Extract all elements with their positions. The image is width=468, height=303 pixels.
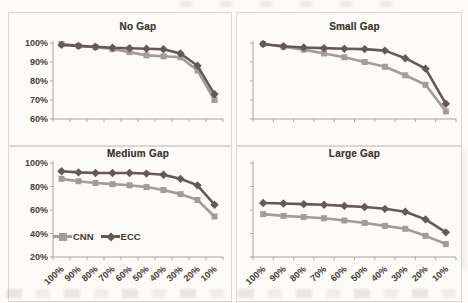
legend-label-ecc: ECC xyxy=(121,231,141,242)
chart-no-gap-plot: 60%70%80%90%100% xyxy=(9,13,233,147)
svg-text:30%: 30% xyxy=(165,264,185,283)
svg-text:10%: 10% xyxy=(199,264,219,283)
svg-text:40%: 40% xyxy=(369,264,389,283)
svg-text:70%: 70% xyxy=(30,95,48,105)
svg-text:50%: 50% xyxy=(131,264,151,283)
svg-text:70%: 70% xyxy=(97,264,117,283)
svg-text:100%: 100% xyxy=(244,264,268,287)
legend-item-cnn: CNN xyxy=(53,231,94,242)
svg-text:50%: 50% xyxy=(349,264,369,283)
svg-text:30%: 30% xyxy=(390,264,410,283)
svg-text:40%: 40% xyxy=(30,229,48,239)
svg-text:60%: 60% xyxy=(30,205,48,215)
svg-text:80%: 80% xyxy=(30,182,48,192)
svg-text:70%: 70% xyxy=(308,264,328,283)
svg-text:10%: 10% xyxy=(430,264,450,283)
legend-item-ecc: ECC xyxy=(101,231,141,242)
svg-text:20%: 20% xyxy=(182,264,202,283)
legend-label-cnn: CNN xyxy=(73,231,94,242)
panel-no-gap: No Gap 60%70%80%90%100% xyxy=(8,12,232,146)
svg-text:60%: 60% xyxy=(114,264,134,283)
svg-text:100%: 100% xyxy=(25,38,48,48)
svg-text:80%: 80% xyxy=(80,264,100,283)
svg-text:60%: 60% xyxy=(329,264,349,283)
chart-legend: CNN ECC xyxy=(53,231,141,242)
panel-medium-gap: Medium Gap 20%40%60%80%100%100%90%80%70%… xyxy=(8,146,232,302)
chart-small-gap-plot xyxy=(237,13,463,147)
svg-text:40%: 40% xyxy=(148,264,168,283)
ecc-line-sample-icon xyxy=(101,235,120,238)
cnn-line-sample-icon xyxy=(53,235,72,238)
four-panel-line-chart-figure: No Gap 60%70%80%90%100% Small Gap Medium… xyxy=(0,0,468,303)
svg-text:90%: 90% xyxy=(63,264,83,283)
panel-small-gap: Small Gap xyxy=(236,12,462,146)
chart-medium-gap-plot: 20%40%60%80%100%100%90%80%70%60%50%40%30… xyxy=(9,147,233,303)
chart-large-gap-plot: 100%90%80%70%60%50%40%30%20%10% xyxy=(237,147,463,303)
svg-text:80%: 80% xyxy=(30,76,48,86)
scan-artifact xyxy=(180,1,420,7)
panel-large-gap: Large Gap 100%90%80%70%60%50%40%30%20%10… xyxy=(236,146,462,302)
ecc-diamond-marker-icon xyxy=(106,232,115,241)
cnn-square-marker-icon xyxy=(59,233,67,241)
svg-text:20%: 20% xyxy=(30,252,48,262)
svg-text:60%: 60% xyxy=(30,114,48,124)
svg-text:90%: 90% xyxy=(30,57,48,67)
svg-text:100%: 100% xyxy=(25,158,48,168)
svg-text:90%: 90% xyxy=(268,264,288,283)
svg-text:20%: 20% xyxy=(410,264,430,283)
svg-text:80%: 80% xyxy=(288,264,308,283)
